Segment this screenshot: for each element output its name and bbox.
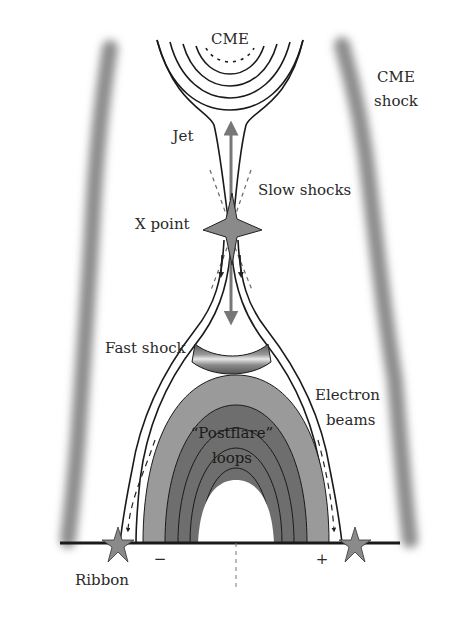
label-postflare-1: “Postflare” [191, 424, 274, 442]
cme-shock-left [68, 48, 110, 540]
inflow-arrow-left [221, 255, 222, 275]
label-slow-shocks: Slow shocks [258, 181, 351, 199]
label-cme-shock-1: CME [377, 68, 415, 86]
cme-shock-right [342, 45, 410, 540]
fast-shock-band [192, 344, 271, 374]
label-electron-beams-1: Electron [315, 386, 380, 404]
label-plus: + [316, 550, 329, 568]
label-cme: CME [211, 30, 249, 48]
x-point-star [203, 193, 262, 265]
label-postflare-2: loops [212, 449, 252, 467]
label-cme-shock-2: shock [374, 92, 419, 110]
label-electron-beams-2: beams [326, 411, 375, 429]
label-jet: Jet [171, 127, 194, 145]
label-ribbon: Ribbon [75, 571, 129, 589]
flare-reconnection-diagram: CME CME shock Jet Slow shocks X point Fa… [0, 0, 458, 618]
label-minus: − [154, 550, 167, 568]
label-fast-shock: Fast shock [105, 339, 187, 357]
cme-loops [157, 40, 303, 110]
inflow-arrow-right [240, 255, 241, 275]
label-x-point: X point [135, 215, 190, 233]
